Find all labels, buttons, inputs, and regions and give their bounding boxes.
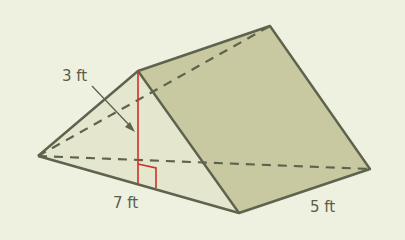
prism-diagram: 3 ft 7 ft 5 ft — [0, 0, 405, 240]
base-label: 7 ft — [113, 194, 138, 212]
length-label: 5 ft — [310, 198, 335, 216]
height-label: 3 ft — [62, 67, 87, 85]
prism-svg: 3 ft 7 ft 5 ft — [0, 0, 405, 240]
